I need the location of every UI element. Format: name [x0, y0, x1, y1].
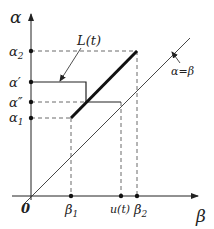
diagonal-pointer-arrow [172, 52, 180, 63]
diagram-canvas: α β 0 α2 α′ α″ α1 β1 u(t) β2 L(t) α=β [0, 0, 214, 229]
thick-segment [71, 51, 137, 118]
x-tick-label-beta2: β2 [133, 202, 148, 219]
x-tick-label-u-t: u(t) [110, 203, 130, 216]
l-t-curve [31, 82, 121, 102]
diagonal-line [24, 38, 190, 204]
y-tick-label-alpha1: α1 [9, 110, 24, 127]
l-t-label: L(t) [76, 33, 101, 48]
x-tick-label-beta1: β1 [64, 202, 78, 219]
diagonal-label: α=β [171, 65, 194, 78]
dashed-guides [31, 51, 137, 196]
y-axis-label: α [10, 7, 22, 27]
x-axis-label: β [195, 206, 206, 226]
y-tick-label-alpha-dprime: α″ [9, 95, 23, 110]
y-tick-label-alpha-prime: α′ [9, 75, 21, 90]
l-t-pointer-arrow [60, 48, 81, 81]
y-tick-label-alpha2: α2 [9, 44, 24, 61]
origin-label: 0 [21, 201, 30, 216]
